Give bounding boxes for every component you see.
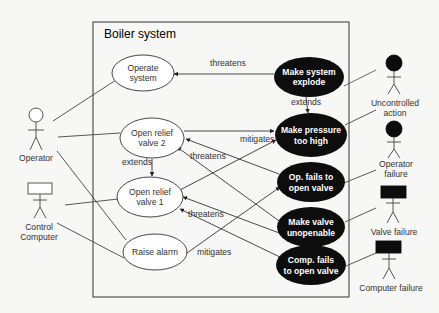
svg-text:Make valve: Make valve <box>288 217 334 227</box>
svg-text:unopenable: unopenable <box>287 228 335 238</box>
actor-control-computer-label-2: Computer <box>20 232 58 242</box>
svg-text:Op. fails to: Op. fails to <box>289 172 333 182</box>
label-threatens: threatens <box>188 209 224 219</box>
svg-text:Make pressure: Make pressure <box>281 125 341 135</box>
misuser-uncontrolled-action <box>386 55 402 94</box>
label-threatens: threatens <box>190 151 226 161</box>
label-threatens: threatens <box>210 58 246 68</box>
misuser-computer-failure-label: Computer failure <box>359 283 423 293</box>
misuse-case-comp-fails-to-open-valve: Comp. fails to open valve <box>276 245 346 285</box>
misuser-valve-failure <box>381 186 406 223</box>
label-extends: extends <box>291 97 321 107</box>
use-case-open-relief-valve-2: Open relief valve 2 <box>120 118 184 158</box>
system-title: Boiler system <box>104 27 176 41</box>
svg-text:Raise alarm: Raise alarm <box>132 247 178 257</box>
label-extends: extends <box>122 157 152 167</box>
use-case-open-relief-valve-1: Open relief valve 1 <box>117 177 183 217</box>
misuser-computer-failure <box>376 241 401 279</box>
use-case-operate-system: Operate system <box>112 55 174 91</box>
svg-text:Comp. fails: Comp. fails <box>288 255 335 265</box>
svg-text:system: system <box>129 73 156 83</box>
label-mitigates: mitigates <box>240 134 274 144</box>
svg-text:valve 2: valve 2 <box>138 138 165 148</box>
svg-text:Open relief: Open relief <box>129 187 172 197</box>
misuser-operator-failure-label-1: Operator <box>379 159 413 169</box>
actor-operator-label: Operator <box>19 153 53 163</box>
misuse-case-diagram: Boiler system threatens extends mitigate… <box>0 0 439 313</box>
svg-text:Make system: Make system <box>282 67 336 77</box>
use-case-raise-alarm: Raise alarm <box>123 234 187 270</box>
svg-text:valve 1: valve 1 <box>136 197 163 207</box>
svg-text:too high: too high <box>294 136 328 146</box>
actor-operator <box>28 108 44 150</box>
misuser-uncontrolled-action-label-1: Uncontrolled <box>371 98 419 108</box>
misuse-case-make-system-explode: Make system explode <box>274 57 344 97</box>
misuser-valve-failure-label: Valve failure <box>371 227 418 237</box>
svg-text:Operate: Operate <box>127 63 158 73</box>
actor-control-computer-label-1: Control <box>25 222 53 232</box>
svg-text:explode: explode <box>293 77 326 87</box>
svg-text:to open valve: to open valve <box>284 266 339 276</box>
misuse-case-make-valve-unopenable: Make valve unopenable <box>277 207 345 247</box>
misuser-uncontrolled-action-label-2: action <box>384 108 407 118</box>
misuse-case-make-pressure-too-high: Make pressure too high <box>275 113 347 157</box>
label-mitigates: mitigates <box>197 247 231 257</box>
actor-control-computer <box>28 183 52 218</box>
svg-text:Open relief: Open relief <box>131 128 174 138</box>
misuser-operator-failure-label-2: failure <box>384 169 408 179</box>
misuse-case-op-fails-to-open-valve: Op. fails to open valve <box>277 162 345 202</box>
misuser-operator-failure <box>386 121 402 158</box>
svg-text:open valve: open valve <box>289 183 334 193</box>
